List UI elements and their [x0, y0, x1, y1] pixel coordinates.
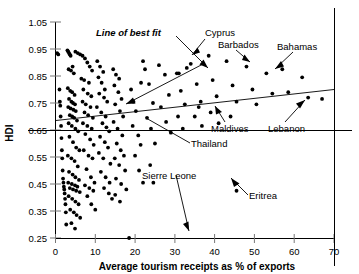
data-point [151, 101, 155, 105]
data-point [270, 92, 274, 96]
x-axis [56, 234, 335, 243]
data-points [55, 48, 324, 239]
data-point [70, 221, 74, 225]
data-point [72, 116, 76, 120]
data-point [84, 102, 88, 106]
data-point [64, 210, 68, 214]
data-point [83, 132, 87, 136]
data-point [245, 65, 249, 69]
data-point [73, 93, 77, 97]
x-tick-label: 40 [209, 246, 220, 257]
data-point [200, 124, 204, 128]
data-point [101, 156, 105, 160]
data-point [67, 170, 71, 174]
data-point [264, 71, 268, 75]
data-point [83, 183, 87, 187]
annotation-bahamas: Bahamas [277, 41, 317, 52]
data-point [81, 100, 85, 104]
data-point [116, 127, 120, 131]
data-point [87, 186, 91, 190]
data-point [70, 197, 74, 201]
data-point [82, 148, 86, 152]
data-point [176, 115, 180, 119]
data-point [62, 188, 66, 192]
data-point [102, 186, 106, 190]
data-point [143, 67, 147, 71]
data-point [181, 127, 185, 131]
data-point [91, 189, 95, 193]
data-point [107, 192, 111, 196]
data-point [69, 69, 73, 73]
x-tick-label: 0 [53, 246, 58, 257]
data-point [209, 111, 213, 115]
data-point [69, 54, 73, 58]
y-tick-label: 0.25 [29, 233, 48, 244]
chart-canvas: 1.05 0.95 0.85 0.75 0.65 0.55 0.45 0.35 … [0, 0, 359, 274]
data-point [60, 136, 64, 140]
data-point [58, 100, 62, 104]
data-point [75, 185, 79, 189]
data-point [120, 97, 124, 101]
data-point [74, 189, 78, 193]
data-point [97, 151, 101, 155]
data-point [89, 175, 93, 179]
annotation-cyprus: Cyprus [205, 27, 235, 38]
data-point [153, 142, 157, 146]
data-point [300, 75, 304, 79]
data-point [141, 59, 145, 63]
data-point [90, 127, 94, 131]
data-point [195, 82, 199, 86]
data-point [74, 146, 78, 150]
data-point [129, 88, 133, 92]
data-point [91, 156, 95, 160]
data-point [110, 197, 114, 201]
data-point [122, 154, 126, 158]
data-point [75, 213, 79, 217]
annotation-sierre-leone: Sierre Leone [142, 170, 196, 181]
data-point [70, 156, 74, 160]
data-point [107, 129, 111, 133]
data-point [118, 109, 122, 113]
data-point [90, 69, 94, 73]
data-point [105, 125, 109, 129]
data-point [117, 77, 121, 81]
data-point [68, 208, 72, 212]
data-point [139, 81, 143, 85]
x-tick-label: 10 [90, 246, 101, 257]
data-point [109, 162, 113, 166]
data-point [82, 78, 86, 82]
data-point [95, 105, 99, 109]
data-point [61, 169, 65, 173]
data-point [179, 89, 183, 93]
annotation-barbados: Barbados [218, 39, 259, 50]
data-point [73, 175, 77, 179]
data-point [100, 81, 104, 85]
y-axis-title: HDI [4, 124, 15, 141]
data-point [93, 208, 97, 212]
data-point [72, 71, 76, 75]
data-point [85, 61, 89, 65]
data-point [106, 146, 110, 150]
data-point [87, 154, 91, 158]
data-point [83, 111, 87, 115]
x-tick-label: 50 [249, 246, 260, 257]
data-point [131, 124, 135, 128]
data-point [71, 65, 75, 69]
data-point [98, 65, 102, 69]
data-point [114, 73, 118, 77]
data-point [117, 163, 121, 167]
data-point [85, 124, 89, 128]
data-point [105, 100, 109, 104]
data-point [185, 66, 189, 70]
data-point [108, 181, 112, 185]
data-point [225, 59, 229, 63]
data-point [67, 121, 71, 125]
data-point [112, 84, 116, 88]
data-point [231, 84, 235, 88]
data-point [207, 54, 211, 58]
data-point [251, 88, 255, 92]
annotation-maldives: Maldives [211, 123, 249, 134]
data-point [113, 156, 117, 160]
data-point [88, 138, 92, 142]
data-point [59, 124, 63, 128]
